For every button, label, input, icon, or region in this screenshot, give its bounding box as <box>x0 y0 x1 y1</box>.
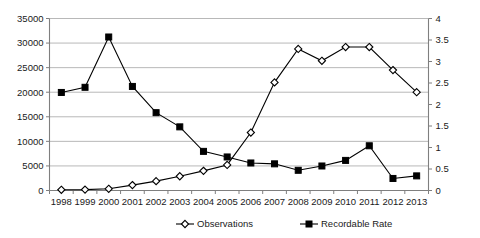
right-axis-tick-labels: 00.511.522.533.54 <box>436 13 449 196</box>
data-point-marker <box>414 173 420 179</box>
data-point-marker <box>342 43 349 50</box>
right-axis-tick-label: 2 <box>436 99 441 110</box>
data-point-marker <box>271 79 278 86</box>
right-axis-tick-label: 1 <box>436 142 441 153</box>
right-axis-tick-label: 2.5 <box>436 77 449 88</box>
axes-group <box>46 19 432 195</box>
right-axis-tick-label: 3 <box>436 56 441 67</box>
series-line <box>61 37 416 178</box>
left-axis-tick-label: 25000 <box>17 62 43 73</box>
data-point-marker <box>81 186 88 193</box>
series-2 <box>58 34 419 181</box>
data-point-marker <box>200 148 206 154</box>
chart-container: 05000100001500020000250003000035000 00.5… <box>0 0 480 238</box>
x-axis-category-label: 2009 <box>311 196 332 207</box>
data-point-marker <box>366 143 372 149</box>
data-point-marker <box>390 175 396 181</box>
x-axis-category-label: 2011 <box>359 196 379 207</box>
data-point-marker <box>248 160 254 166</box>
data-point-marker <box>176 173 183 180</box>
x-axis-category-label: 2005 <box>217 196 238 207</box>
x-axis-category-label: 2007 <box>264 196 285 207</box>
data-point-marker <box>129 83 135 89</box>
left-axis-tick-label: 15000 <box>17 111 43 122</box>
legend-label: Observations <box>197 218 253 229</box>
x-axis-category-label: 2008 <box>288 196 309 207</box>
x-axis-category-label: 2012 <box>382 196 403 207</box>
x-axis-category-label: 2000 <box>98 196 119 207</box>
data-series-group <box>58 34 421 193</box>
data-point-marker <box>224 154 230 160</box>
data-point-marker <box>272 161 278 167</box>
left-axis-tick-labels: 05000100001500020000250003000035000 <box>17 13 43 196</box>
left-axis-tick-label: 0 <box>38 185 43 196</box>
left-axis-tick-label: 35000 <box>17 13 43 24</box>
right-axis-tick-label: 4 <box>436 13 441 24</box>
left-axis-tick-label: 10000 <box>17 136 43 147</box>
right-axis-tick-label: 3.5 <box>436 34 449 45</box>
gridlines-group <box>50 19 429 191</box>
x-axis-category-label: 2004 <box>193 196 214 207</box>
data-point-marker <box>318 57 325 64</box>
data-point-marker <box>58 186 65 193</box>
line-chart: 05000100001500020000250003000035000 00.5… <box>0 0 480 238</box>
legend-item[interactable]: Recordable Rate <box>300 218 392 229</box>
x-axis-category-label: 1999 <box>74 196 95 207</box>
data-point-marker <box>295 45 302 52</box>
series-1 <box>58 43 421 193</box>
right-axis-tick-label: 0 <box>436 185 441 196</box>
right-axis-tick-label: 0.5 <box>436 163 449 174</box>
x-axis-tick-labels: 1998199920002001200220032004200520062007… <box>51 196 427 207</box>
data-point-marker <box>343 157 349 163</box>
x-axis-category-label: 1998 <box>51 196 72 207</box>
left-axis-tick-label: 30000 <box>17 37 43 48</box>
legend-item[interactable]: Observations <box>176 218 253 229</box>
right-axis-tick-label: 1.5 <box>436 120 449 131</box>
x-axis-category-label: 2002 <box>146 196 167 207</box>
x-axis-category-label: 2006 <box>240 196 261 207</box>
x-axis-category-label: 2001 <box>122 196 143 207</box>
x-axis-category-label: 2013 <box>406 196 427 207</box>
data-point-marker <box>153 110 159 116</box>
legend-marker <box>181 220 188 227</box>
legend-marker <box>306 221 312 227</box>
chart-legend: ObservationsRecordable Rate <box>176 218 392 229</box>
data-point-marker <box>58 89 64 95</box>
data-point-marker <box>129 181 136 188</box>
data-point-marker <box>295 167 301 173</box>
series-line <box>61 47 416 190</box>
x-axis-category-label: 2003 <box>169 196 190 207</box>
left-axis-tick-label: 5000 <box>22 160 43 171</box>
data-point-marker <box>319 163 325 169</box>
x-axis-category-label: 2010 <box>335 196 356 207</box>
left-axis-tick-label: 20000 <box>17 87 43 98</box>
data-point-marker <box>200 167 207 174</box>
data-point-marker <box>82 84 88 90</box>
legend-label: Recordable Rate <box>321 218 392 229</box>
data-point-marker <box>105 185 112 192</box>
data-point-marker <box>152 178 159 185</box>
data-point-marker <box>106 34 112 40</box>
data-point-marker <box>177 124 183 130</box>
